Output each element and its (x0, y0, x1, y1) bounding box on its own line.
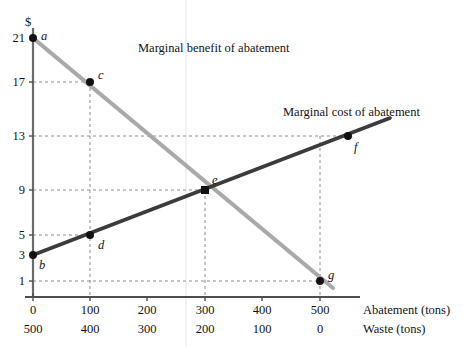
x-tick-abatement-100: 100 (70, 304, 110, 317)
point-label-g: g (328, 269, 334, 282)
point-label-c: c (98, 69, 104, 82)
point-label-b: b (39, 259, 45, 272)
y-tick-3: 3 (3, 249, 25, 262)
y-axis-unit-label: $ (25, 16, 31, 29)
point-d (86, 231, 94, 239)
x-tick-abatement-300: 300 (185, 304, 225, 317)
point-e (201, 186, 209, 194)
x-tick-waste-300: 300 (127, 323, 167, 336)
data-points (29, 34, 352, 285)
marginal-benefit-curve (33, 38, 333, 288)
x-tick-abatement-400: 400 (242, 304, 282, 317)
y-tick-5: 5 (3, 229, 25, 242)
point-a (29, 34, 37, 42)
y-tick-9: 9 (3, 184, 25, 197)
x-tick-abatement-200: 200 (127, 304, 167, 317)
point-g (316, 277, 324, 285)
y-tick-21: 21 (3, 32, 25, 45)
point-f (344, 132, 352, 140)
x-axis-title-abatement: Abatement (tons) (363, 304, 450, 317)
y-tick-17: 17 (3, 76, 25, 89)
x-tick-waste-0: 0 (300, 323, 340, 336)
point-label-a: a (41, 30, 47, 43)
x-axis-title-waste: Waste (tons) (363, 323, 426, 336)
x-tick-abatement-0: 0 (13, 304, 53, 317)
x-tick-abatement-500: 500 (300, 304, 340, 317)
y-tick-1: 1 (3, 275, 25, 288)
curve-label-marginal-benefit: Marginal benefit of abatement (138, 42, 289, 55)
point-label-e: e (212, 174, 218, 187)
x-tick-waste-100: 100 (242, 323, 282, 336)
x-tick-waste-500: 500 (13, 323, 53, 336)
abatement-cost-benefit-chart: $ 21 17 13 9 5 3 1 0 100 200 300 400 500… (0, 0, 463, 347)
point-b (29, 251, 37, 259)
y-tick-13: 13 (3, 130, 25, 143)
point-label-f: f (354, 141, 357, 154)
curve-label-marginal-cost: Marginal cost of abatement (283, 106, 420, 119)
point-label-d: d (98, 239, 104, 252)
point-c (86, 78, 94, 86)
x-tick-waste-400: 400 (70, 323, 110, 336)
x-tick-waste-200: 200 (185, 323, 225, 336)
